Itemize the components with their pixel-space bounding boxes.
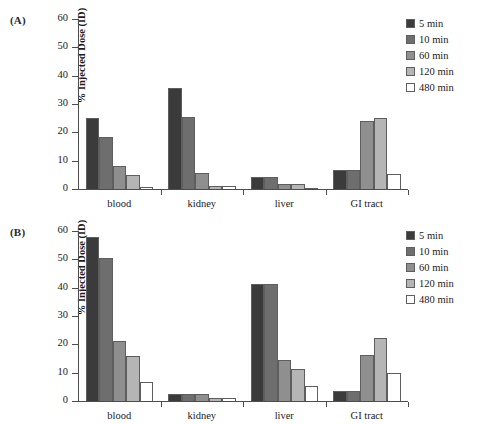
- bar-b-kidney-10-min: [182, 394, 196, 401]
- bar-a-GI-tract-10-min: [347, 170, 361, 189]
- x-tick-b-3: [326, 402, 327, 407]
- bar-group-bars: [86, 19, 154, 189]
- bar-b-blood-5-min: [86, 237, 100, 401]
- x-axis-label-a-3: GI tract: [351, 198, 383, 209]
- bar-group-a-1: [168, 19, 236, 189]
- plot-area-a: 0102030405060bloodkidneyliverGI tract: [78, 19, 408, 190]
- legend-swatch-icon: [406, 247, 415, 256]
- bar-a-GI-tract-120-min: [374, 118, 388, 189]
- legend-item-b-5-min[interactable]: 5 min: [406, 228, 486, 243]
- bar-group-b-3: [333, 231, 401, 401]
- bar-b-GI-tract-10-min: [347, 391, 361, 401]
- bar-group-b-1: [168, 231, 236, 401]
- bar-group-bars: [333, 231, 401, 401]
- bar-a-liver-5-min: [251, 177, 265, 189]
- y-tick-b-60: 60: [72, 231, 78, 232]
- bar-a-blood-120-min: [126, 175, 140, 189]
- bar-b-liver-5-min: [251, 284, 265, 401]
- y-tick-b-10: 10: [72, 373, 78, 374]
- legend-label: 60 min: [419, 50, 448, 61]
- legend-label: 120 min: [419, 278, 454, 289]
- x-tick-b-end: [408, 402, 409, 407]
- figure-bar-charts: (A) % Injected Dose (ID) 0102030405060bl…: [0, 0, 496, 424]
- panel-label-a: (A): [10, 14, 26, 26]
- x-axis-label-b-0: blood: [107, 410, 131, 421]
- legend-label: 120 min: [419, 66, 454, 77]
- bar-b-GI-tract-5-min: [333, 391, 347, 401]
- x-axis-label-a-2: liver: [275, 198, 294, 209]
- legend-item-a-60-min[interactable]: 60 min: [406, 48, 486, 63]
- x-tick-b-2: [243, 402, 244, 407]
- bar-b-liver-60-min: [278, 360, 292, 401]
- bar-group-bars: [168, 231, 236, 401]
- bar-b-kidney-480-min: [222, 398, 236, 401]
- bar-a-kidney-480-min: [222, 186, 236, 189]
- legend-swatch-icon: [406, 19, 415, 28]
- legend-item-a-480-min[interactable]: 480 min: [406, 80, 486, 95]
- bar-a-liver-60-min: [278, 184, 292, 189]
- panel-label-b: (B): [10, 226, 25, 238]
- bar-group-a-0: [86, 19, 154, 189]
- bar-a-GI-tract-60-min: [360, 121, 374, 189]
- bar-a-GI-tract-480-min: [387, 174, 401, 189]
- legend-label: 60 min: [419, 262, 448, 273]
- y-tick-label-b-30: 30: [58, 309, 69, 320]
- y-tick-b-0: 0: [72, 401, 78, 402]
- legend-item-b-10-min[interactable]: 10 min: [406, 244, 486, 259]
- bar-group-a-3: [333, 19, 401, 189]
- y-tick-label-a-10: 10: [58, 154, 69, 165]
- y-tick-label-b-0: 0: [63, 394, 68, 405]
- legend-swatch-icon: [406, 51, 415, 60]
- bar-b-blood-120-min: [126, 356, 140, 401]
- y-tick-b-40: 40: [72, 288, 78, 289]
- x-axis-label-a-1: kidney: [187, 198, 216, 209]
- bar-a-blood-5-min: [86, 118, 100, 189]
- legend-item-b-60-min[interactable]: 60 min: [406, 260, 486, 275]
- legend-swatch-icon: [406, 231, 415, 240]
- legend-item-b-480-min[interactable]: 480 min: [406, 292, 486, 307]
- legend-swatch-icon: [406, 279, 415, 288]
- y-tick-label-b-50: 50: [58, 252, 69, 263]
- x-axis-label-a-0: blood: [107, 198, 131, 209]
- x-axis-label-b-1: kidney: [187, 410, 216, 421]
- y-tick-label-a-50: 50: [58, 40, 69, 51]
- bar-b-liver-480-min: [305, 386, 319, 401]
- bar-group-bars: [86, 231, 154, 401]
- bar-a-blood-480-min: [140, 187, 154, 189]
- bar-a-liver-120-min: [291, 184, 305, 189]
- y-axis-line-b: [78, 231, 79, 402]
- legend-item-b-120-min[interactable]: 120 min: [406, 276, 486, 291]
- legend-label: 480 min: [419, 82, 454, 93]
- bar-a-kidney-120-min: [209, 186, 223, 189]
- bar-b-liver-120-min: [291, 369, 305, 401]
- bar-a-kidney-10-min: [182, 117, 196, 189]
- y-tick-a-20: 20: [72, 132, 78, 133]
- y-tick-label-a-30: 30: [58, 97, 69, 108]
- x-axis-label-b-2: liver: [275, 410, 294, 421]
- legend-item-a-10-min[interactable]: 10 min: [406, 32, 486, 47]
- legend-swatch-icon: [406, 67, 415, 76]
- y-tick-a-10: 10: [72, 161, 78, 162]
- bar-b-GI-tract-120-min: [374, 338, 388, 401]
- bar-b-blood-480-min: [140, 382, 154, 401]
- y-tick-b-30: 30: [72, 316, 78, 317]
- bar-b-GI-tract-60-min: [360, 355, 374, 401]
- bar-group-bars: [251, 231, 319, 401]
- y-tick-label-b-60: 60: [58, 224, 69, 235]
- bar-a-kidney-5-min: [168, 88, 182, 189]
- x-tick-b-1: [161, 402, 162, 407]
- bar-a-blood-10-min: [99, 137, 113, 189]
- chart-panel-a: (A) % Injected Dose (ID) 0102030405060bl…: [0, 0, 496, 212]
- bar-b-liver-10-min: [264, 284, 278, 401]
- legend-swatch-icon: [406, 83, 415, 92]
- y-tick-label-a-40: 40: [58, 69, 69, 80]
- legend-item-a-5-min[interactable]: 5 min: [406, 16, 486, 31]
- x-tick-a-2: [243, 190, 244, 195]
- y-tick-label-a-60: 60: [58, 12, 69, 23]
- legend-a: 5 min10 min60 min120 min480 min: [406, 16, 486, 96]
- bar-group-a-2: [251, 19, 319, 189]
- y-tick-a-0: 0: [72, 189, 78, 190]
- bar-group-bars: [251, 19, 319, 189]
- bar-b-blood-60-min: [113, 341, 127, 401]
- legend-item-a-120-min[interactable]: 120 min: [406, 64, 486, 79]
